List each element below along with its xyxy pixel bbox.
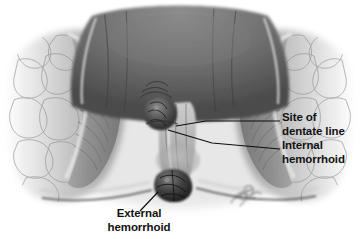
label-external-line2: hemorrhoid [86,221,192,235]
label-dentate-line2: dentate line [282,125,345,139]
label-external-hemorrhoid: External hemorrhoid [86,207,192,234]
label-internal-line2: hemorrhoid [282,153,345,167]
anatomical-figure: Site of dentate line Internal hemorrhoid… [0,0,360,239]
label-external-line1: External [86,207,192,221]
label-dentate-line1: Site of [282,111,345,125]
label-internal-hemorrhoid: Internal hemorrhoid [282,139,345,166]
label-site-of-dentate-line: Site of dentate line [282,111,345,138]
label-internal-line1: Internal [282,139,345,153]
